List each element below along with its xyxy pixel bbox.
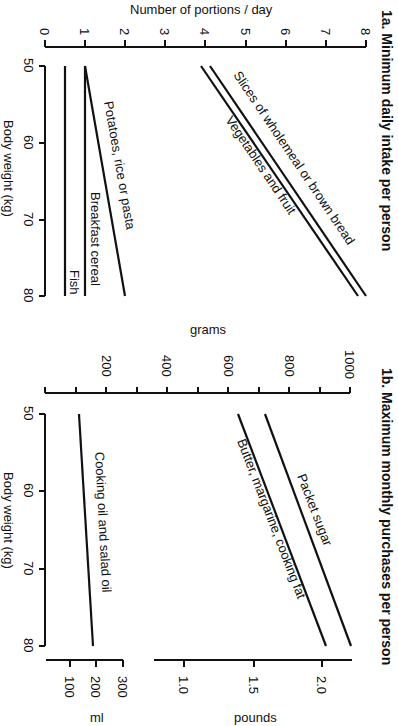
panel-1a: 1a. Minimum daily intake per person Numb… (1, 2, 395, 302)
label-butter: Butter, margarine, cooking fat (234, 437, 309, 601)
svg-text:200: 200 (99, 355, 114, 377)
portions-axis-label: Number of portions / day (130, 2, 273, 17)
panel-1b: 1b. Maximum monthly purchases per person… (1, 322, 395, 725)
svg-text:7: 7 (318, 28, 333, 35)
svg-text:1.0: 1.0 (176, 676, 191, 694)
label-oil: Cooking oil and salad oil (92, 451, 114, 593)
svg-text:50: 50 (21, 58, 36, 72)
label-veg: Vegetables and fruit (223, 113, 300, 217)
svg-text:600: 600 (221, 355, 236, 377)
svg-text:3: 3 (157, 28, 172, 35)
ml-axis-label: ml (90, 710, 104, 725)
grams-axis: 200 400 600 800 1000 (45, 350, 357, 393)
svg-text:0: 0 (37, 28, 52, 35)
svg-text:2.0: 2.0 (314, 676, 329, 694)
svg-text:8: 8 (358, 28, 373, 35)
pounds-axis-label: pounds (234, 710, 277, 725)
line-oil (79, 414, 93, 646)
svg-text:100: 100 (62, 676, 77, 698)
label-potatoes: Potatoes, rice or pasta (101, 100, 138, 231)
svg-text:70: 70 (21, 212, 36, 226)
svg-text:Body weight (kg): Body weight (kg) (1, 120, 16, 217)
svg-text:80: 80 (21, 638, 36, 652)
svg-text:60: 60 (21, 483, 36, 497)
weight-axis-b: 50 60 70 80 Body weight (kg) (1, 406, 45, 652)
chart-svg: 1a. Minimum daily intake per person Numb… (0, 0, 398, 726)
svg-text:200: 200 (88, 676, 103, 698)
svg-text:1: 1 (77, 28, 92, 35)
svg-text:2: 2 (117, 28, 132, 35)
svg-text:80: 80 (21, 288, 36, 302)
svg-text:400: 400 (159, 355, 174, 377)
panel-1b-title: 1b. Maximum monthly purchases per person (379, 368, 395, 665)
svg-text:1000: 1000 (342, 350, 357, 379)
grams-axis-label: grams (190, 322, 227, 337)
svg-text:Body weight (kg): Body weight (kg) (1, 472, 16, 569)
panel-1a-title: 1a. Minimum daily intake per person (379, 10, 395, 251)
svg-text:300: 300 (115, 676, 130, 698)
svg-text:70: 70 (21, 561, 36, 575)
label-cereal: Breakfast cereal (88, 192, 103, 286)
svg-text:4: 4 (197, 28, 212, 35)
svg-text:60: 60 (21, 135, 36, 149)
pounds-axis: 1.0 1.5 2.0 pounds (154, 660, 352, 725)
svg-text:5: 5 (238, 28, 253, 35)
ml-axis: 100 200 300 ml (46, 660, 130, 725)
label-fish: Fish (67, 270, 82, 295)
portions-axis: 0 1 2 3 4 5 6 7 8 (37, 28, 373, 47)
line-bread (210, 66, 366, 296)
svg-text:800: 800 (282, 355, 297, 377)
svg-text:6: 6 (278, 28, 293, 35)
svg-text:50: 50 (21, 406, 36, 420)
svg-text:1.5: 1.5 (246, 676, 261, 694)
weight-axis-a: 50 60 70 80 Body weight (kg) (1, 58, 45, 302)
chart-figure: 1a. Minimum daily intake per person Numb… (0, 0, 398, 726)
